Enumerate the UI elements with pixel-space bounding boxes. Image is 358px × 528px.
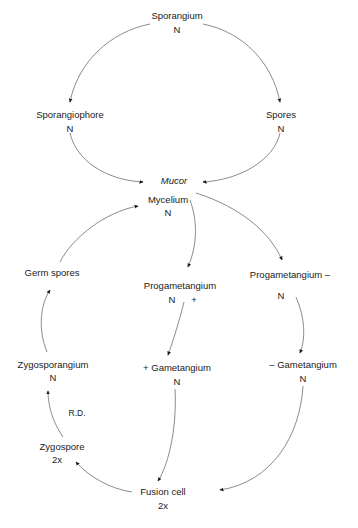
edge-sporangium-to-spores [203,24,280,102]
node-progametangium-plus: Progametangium N + [144,280,216,305]
edge-mycelium-to-progametangium-plus [188,200,196,267]
node-mycelium-label: Mycelium [148,194,188,205]
edge-germ-spores-to-mycelium [60,206,138,262]
node-zygospore: Zygospore 2x [40,441,85,465]
edge-spores-to-mucor [203,133,280,182]
node-germ-spores-label: Germ spores [25,267,80,278]
edge-sporangiophore-to-mucor [70,133,143,182]
node-fusion-cell-ploidy: 2x [158,500,168,511]
node-zygosporangium-label: Zygosporangium [18,359,89,370]
node-gametangium-plus: + Gametangium N [143,362,211,387]
node-zygosporangium-ploidy: N [50,372,57,383]
edge-zygospore-to-zygosporangium [48,391,63,437]
node-mucor: Mucor [161,175,188,186]
edge-zygosporangium-to-germ-spores [41,290,50,352]
node-progametangium-plus-sign: + [191,294,197,305]
node-progametangium-plus-ploidy: N [169,294,176,305]
node-zygosporangium: Zygosporangium N [18,359,89,383]
edge-fusion-cell-to-zygospore [76,462,132,492]
node-sporangium: Sporangium N [151,10,202,35]
node-gametangium-minus-label: – Gametangium [269,359,337,370]
node-fusion-cell-label: Fusion cell [140,486,185,497]
node-zygospore-ploidy: 2x [52,454,62,465]
node-mucor-label: Mucor [161,175,188,186]
node-mycelium-ploidy: N [165,207,172,218]
node-germ-spores: Germ spores [25,267,80,278]
node-spores-ploidy: N [278,123,285,134]
node-sporangium-ploidy: N [174,24,181,35]
node-sporangiophore-label: Sporangiophore [36,109,104,120]
edge-mycelium-to-progametangium-minus [196,193,282,260]
node-sporangium-label: Sporangium [151,10,202,21]
node-spores-label: Spores [266,109,296,120]
mucor-life-cycle-svg: Sporangium N Sporangiophore N Spores N M… [0,0,358,528]
node-gametangium-minus-ploidy: N [300,373,307,384]
node-zygospore-label: Zygospore [40,441,85,452]
edge-progametangium-plus-to-gametangium-plus [168,302,184,355]
node-sporangiophore: Sporangiophore N [36,109,104,134]
edge-label-reduction-division: R.D. [69,408,86,418]
edges-group [41,24,304,492]
edge-sporangium-to-sporangiophore [70,24,150,102]
node-progametangium-plus-label: Progametangium [144,280,216,291]
node-gametangium-plus-label: + Gametangium [143,362,211,373]
node-progametangium-minus-label: Progametangium – [250,269,331,280]
edge-gametangium-plus-to-fusion-cell [158,389,175,481]
life-cycle-diagram-page: Sporangium N Sporangiophore N Spores N M… [0,0,358,528]
edge-gametangium-minus-to-fusion-cell [220,386,303,490]
node-gametangium-minus: – Gametangium N [269,359,337,384]
node-progametangium-minus-ploidy: N [278,290,285,301]
node-spores: Spores N [266,109,296,134]
node-sporangiophore-ploidy: N [67,123,74,134]
node-gametangium-plus-ploidy: N [174,376,181,387]
node-mycelium: Mycelium N [148,194,188,218]
node-fusion-cell: Fusion cell 2x [140,486,185,511]
edge-progametangium-minus-to-gametangium-minus [296,297,304,353]
node-progametangium-minus: Progametangium – N [250,269,331,301]
